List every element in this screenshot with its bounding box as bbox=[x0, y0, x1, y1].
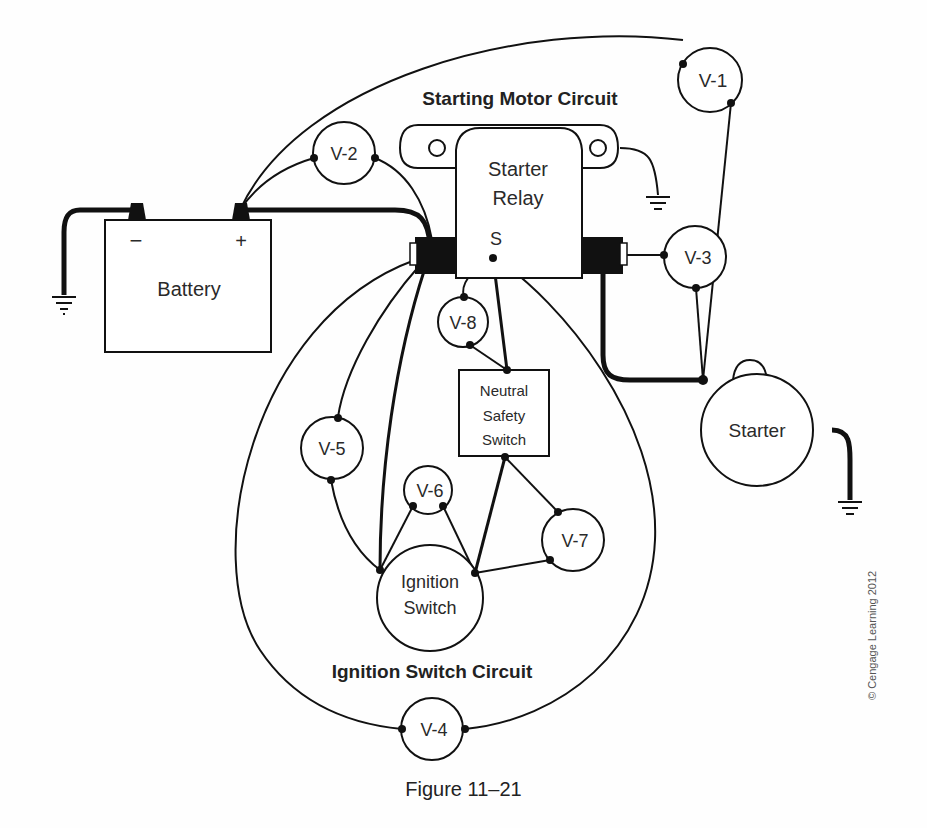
svg-text:Ignition: Ignition bbox=[401, 572, 459, 592]
svg-text:Relay: Relay bbox=[492, 187, 543, 209]
svg-text:V-3: V-3 bbox=[684, 248, 711, 268]
neg-sign: − bbox=[130, 228, 143, 253]
wire-v8-nss bbox=[470, 345, 507, 370]
voltmeter-v4: V-4 bbox=[398, 698, 469, 760]
wire-relay-ground bbox=[620, 148, 658, 195]
wire-v4-relay-s bbox=[465, 258, 655, 729]
wire-nss-ignition bbox=[475, 457, 505, 573]
svg-text:Switch: Switch bbox=[403, 598, 456, 618]
circuit-diagram: − + Battery Starter Relay S Starter Neut… bbox=[0, 0, 927, 828]
voltmeter-v8: V-8 bbox=[438, 293, 488, 349]
relay-starter-terminal bbox=[581, 237, 623, 274]
svg-text:V-6: V-6 bbox=[416, 481, 443, 501]
svg-text:V-5: V-5 bbox=[318, 439, 345, 459]
wire-relay-v5 bbox=[338, 265, 420, 417]
battery-neg-post bbox=[128, 203, 146, 220]
svg-text:Switch: Switch bbox=[482, 431, 526, 448]
wire-v3-starter bbox=[696, 288, 703, 380]
s-terminal: S bbox=[490, 229, 502, 249]
starting-motor-circuit-title: Starting Motor Circuit bbox=[422, 88, 618, 109]
wire-nss-v7 bbox=[505, 457, 558, 512]
ignition-switch-circuit-title: Ignition Switch Circuit bbox=[332, 661, 533, 682]
svg-text:V-2: V-2 bbox=[330, 144, 357, 164]
svg-text:V-4: V-4 bbox=[420, 720, 447, 740]
svg-text:V-7: V-7 bbox=[561, 531, 588, 551]
wire-v5-ignition bbox=[331, 480, 380, 570]
voltmeter-v7: V-7 bbox=[542, 508, 604, 571]
figure-caption: Figure 11–21 bbox=[0, 778, 927, 801]
svg-text:V-8: V-8 bbox=[449, 313, 476, 333]
battery-label: Battery bbox=[157, 278, 220, 300]
voltmeter-v2: V-2 bbox=[310, 122, 379, 184]
wire-battery-v2 bbox=[240, 158, 314, 210]
copyright: © Cengage Learning 2012 bbox=[866, 571, 878, 700]
pos-sign: + bbox=[235, 230, 247, 252]
voltmeter-v5: V-5 bbox=[301, 414, 363, 484]
voltmeter-v6: V-6 bbox=[404, 466, 452, 514]
voltmeter-v3: V-3 bbox=[660, 226, 726, 292]
svg-text:Neutral: Neutral bbox=[480, 382, 528, 399]
voltmeter-v1: V-1 bbox=[678, 48, 742, 112]
svg-text:Starter: Starter bbox=[488, 158, 548, 180]
wire-v7-ignition bbox=[475, 560, 550, 573]
relay-battery-terminal bbox=[415, 237, 457, 274]
battery-pos-post bbox=[232, 203, 250, 220]
svg-text:Safety: Safety bbox=[483, 407, 526, 424]
wire-v2-relay bbox=[375, 158, 432, 240]
svg-text:V-1: V-1 bbox=[699, 70, 728, 91]
svg-text:Starter: Starter bbox=[728, 420, 786, 441]
cable-starter-ground bbox=[832, 430, 850, 500]
